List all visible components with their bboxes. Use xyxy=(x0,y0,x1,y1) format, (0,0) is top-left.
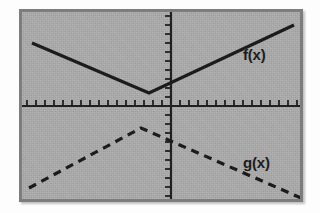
curve-label-fx: f(x) xyxy=(243,46,266,63)
graph-frame: f(x) g(x) xyxy=(19,9,303,202)
screenshot-root: f(x) g(x) xyxy=(0,0,320,213)
curve-label-gx: g(x) xyxy=(243,154,270,171)
graph-plot-area: f(x) g(x) xyxy=(22,12,300,199)
